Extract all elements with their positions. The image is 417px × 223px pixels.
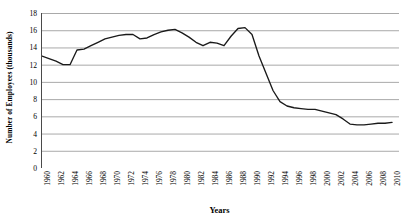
x-tick-label: 2002 xyxy=(338,171,345,186)
y-tick-label: 10 xyxy=(29,77,37,86)
x-tick-label: 1996 xyxy=(296,171,303,186)
y-tick-label: 8 xyxy=(33,95,37,104)
x-tick-label: 1970 xyxy=(114,171,121,186)
y-tick-label: 14 xyxy=(29,43,37,52)
y-axis-title-text: Number of Employees (thousands) xyxy=(5,32,14,144)
x-tick-label: 1998 xyxy=(310,171,317,186)
x-tick-label: 2004 xyxy=(352,171,359,186)
x-tick-label: 2010 xyxy=(394,171,401,186)
x-tick-label: 2000 xyxy=(324,171,331,186)
x-tick-label: 1990 xyxy=(254,171,261,186)
x-tick-label: 1962 xyxy=(58,171,65,186)
x-tick-label: 1988 xyxy=(240,171,247,186)
x-tick-label: 1978 xyxy=(170,171,177,186)
x-tick-label: 1974 xyxy=(142,171,149,186)
y-tick-label: 16 xyxy=(29,26,37,35)
x-tick-label: 1994 xyxy=(282,171,289,186)
stray-mark xyxy=(54,0,66,5)
gridlines xyxy=(42,14,399,169)
y-tick-label: 2 xyxy=(33,146,37,155)
x-tick-label: 1972 xyxy=(128,171,135,186)
x-tick-label: 1986 xyxy=(226,171,233,186)
employment-line-chart: Number of Employees (thousands) 02468101… xyxy=(0,0,417,223)
x-tick-label: 1964 xyxy=(72,171,79,186)
y-axis-tick-labels: 024681012141618 xyxy=(18,0,39,180)
y-axis-title: Number of Employees (thousands) xyxy=(0,0,18,175)
y-tick-label: 6 xyxy=(33,112,37,121)
x-tick-label: 1992 xyxy=(268,171,275,186)
y-tick-label: 4 xyxy=(33,129,37,138)
x-tick-label: 2008 xyxy=(380,171,387,186)
x-tick-label: 1984 xyxy=(212,171,219,186)
x-tick-label: 2006 xyxy=(366,171,373,186)
x-axis-tick-labels: 1960196219641966196819701972197419761978… xyxy=(41,169,398,205)
y-tick-label: 18 xyxy=(29,9,37,18)
x-tick-label: 1968 xyxy=(100,171,107,186)
x-tick-label: 1976 xyxy=(156,171,163,186)
y-tick-label: 12 xyxy=(29,60,37,69)
x-tick-label: 1980 xyxy=(184,171,191,186)
data-series-line xyxy=(42,28,392,125)
y-tick-label: 0 xyxy=(33,164,37,173)
chart-canvas xyxy=(42,13,399,168)
x-tick-label: 1960 xyxy=(44,171,51,186)
x-tick-label: 1966 xyxy=(86,171,93,186)
plot-area xyxy=(41,13,399,168)
x-axis-title: Years xyxy=(41,206,398,215)
x-tick-label: 1982 xyxy=(198,171,205,186)
